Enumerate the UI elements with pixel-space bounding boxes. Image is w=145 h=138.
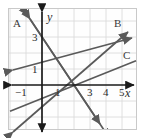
x-tick-neg1: −1 xyxy=(15,87,27,98)
y-tick-1: 1 xyxy=(32,64,38,75)
x-tick-3: 3 xyxy=(87,87,93,98)
coordinate-graph-figure: y x −1 1 3 4 5 1 3 A B C xyxy=(0,0,145,138)
x-tick-1: 1 xyxy=(55,87,61,98)
line-label-b: B xyxy=(114,18,121,29)
line-b xyxy=(10,61,136,111)
y-axis-label: y xyxy=(47,10,52,25)
y-tick-3: 3 xyxy=(32,32,38,43)
x-tick-5: 5 xyxy=(119,87,125,98)
line-b-arrow-segment xyxy=(13,38,132,70)
line-label-c: C xyxy=(123,50,130,61)
x-tick-4: 4 xyxy=(103,87,109,98)
line-label-a: A xyxy=(13,18,21,29)
x-axis-label: x xyxy=(125,86,130,101)
graph-canvas xyxy=(0,0,145,138)
